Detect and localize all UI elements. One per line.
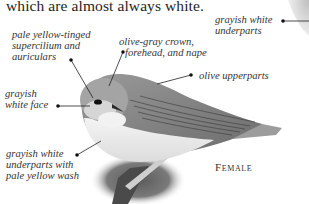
caption-female: Female <box>215 161 252 173</box>
label-supercilium-auriculars: pale yellow-tinged supercilium and auric… <box>12 29 91 62</box>
label-grayish-white-face: grayish white face <box>5 88 48 110</box>
partial-bird-image <box>288 0 309 36</box>
field-guide-page: which are almost always white. <box>0 0 309 204</box>
label-grayish-white-underparts-top: grayish white underparts <box>215 14 272 36</box>
label-olive-upperparts: olive upperparts <box>199 70 269 81</box>
leader-dot <box>56 104 60 108</box>
label-olive-gray-crown: olive-gray crown, forehead, and nape <box>119 36 207 58</box>
bird-eye <box>94 99 102 104</box>
label-underparts-yellow-wash: grayish white underparts with pale yello… <box>6 148 79 181</box>
leader-dot <box>281 19 285 23</box>
bird-throat <box>98 112 126 128</box>
leader-dot <box>189 73 193 77</box>
